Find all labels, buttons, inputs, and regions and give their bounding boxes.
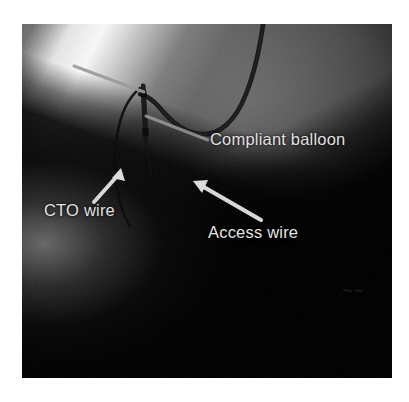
- compliant-balloon-leader-line: [146, 116, 208, 140]
- annotation-overlay: [22, 24, 392, 378]
- figure-root: Compliant balloon CTO wire Access wire: [0, 0, 409, 402]
- balloon-top-leader-line: [74, 66, 144, 92]
- fluoroscopy-image: Compliant balloon CTO wire Access wire: [22, 24, 392, 378]
- access-wire-arrow-shaft: [202, 186, 261, 220]
